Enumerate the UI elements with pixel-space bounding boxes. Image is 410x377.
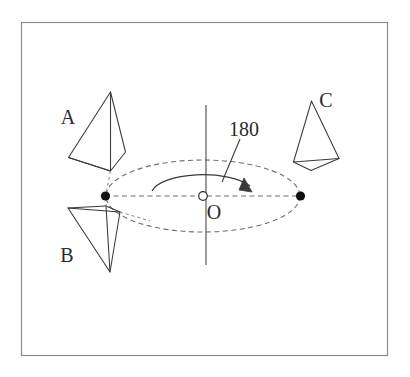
label-c: C xyxy=(319,89,332,111)
label-rotation-angle: 180 xyxy=(229,118,259,140)
figure-container: A B C O 180 xyxy=(0,0,410,377)
right-vertex-dot xyxy=(296,191,305,200)
rotation-diagram: A B C O 180 xyxy=(0,0,410,377)
label-origin: O xyxy=(207,201,221,223)
figure-border xyxy=(22,23,388,356)
label-b: B xyxy=(60,244,73,266)
origin-dot xyxy=(199,192,208,201)
left-vertex-dot xyxy=(101,191,110,200)
label-a: A xyxy=(61,106,76,128)
